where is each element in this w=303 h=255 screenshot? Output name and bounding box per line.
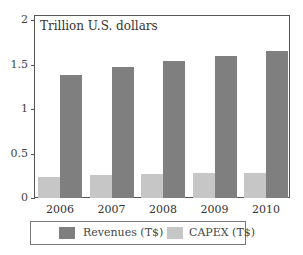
y-tick-label: 0.5 <box>8 147 28 160</box>
capex-bar-2010 <box>244 173 266 198</box>
unit-label: Trillion U.S. dollars <box>40 19 158 33</box>
capex-bar-2007 <box>90 175 112 198</box>
x-tick-label: 2010 <box>246 203 286 216</box>
y-tick-mark <box>31 20 35 21</box>
y-tick-label: 0 <box>8 191 28 204</box>
revenues-bar-2009 <box>215 56 237 198</box>
legend-swatch-capex <box>167 227 183 239</box>
y-tick-mark <box>31 65 35 66</box>
y-tick-label: 1.5 <box>8 58 28 71</box>
legend: Revenues (T$) CAPEX (T$) <box>30 221 246 245</box>
capex-bar-2009 <box>193 173 215 198</box>
legend-label-capex: CAPEX (T$) <box>189 226 255 239</box>
x-tick-label: 2008 <box>143 203 183 216</box>
revenues-bar-2010 <box>266 51 288 198</box>
y-tick-mark <box>31 109 35 110</box>
capex-bar-2006 <box>38 177 60 198</box>
revenues-bar-2007 <box>112 67 134 198</box>
x-tick-label: 2007 <box>92 203 132 216</box>
y-tick-label: 1 <box>8 102 28 115</box>
legend-label-revenues: Revenues (T$) <box>83 226 163 239</box>
capex-bar-2008 <box>141 174 163 198</box>
revenues-bar-2008 <box>163 61 185 198</box>
y-tick-label: 2 <box>8 13 28 26</box>
x-tick-label: 2006 <box>40 203 80 216</box>
x-tick-label: 2009 <box>195 203 235 216</box>
y-tick-mark <box>31 198 35 199</box>
legend-swatch-revenues <box>59 227 75 239</box>
revenues-bar-2006 <box>60 75 82 198</box>
y-tick-mark <box>31 154 35 155</box>
